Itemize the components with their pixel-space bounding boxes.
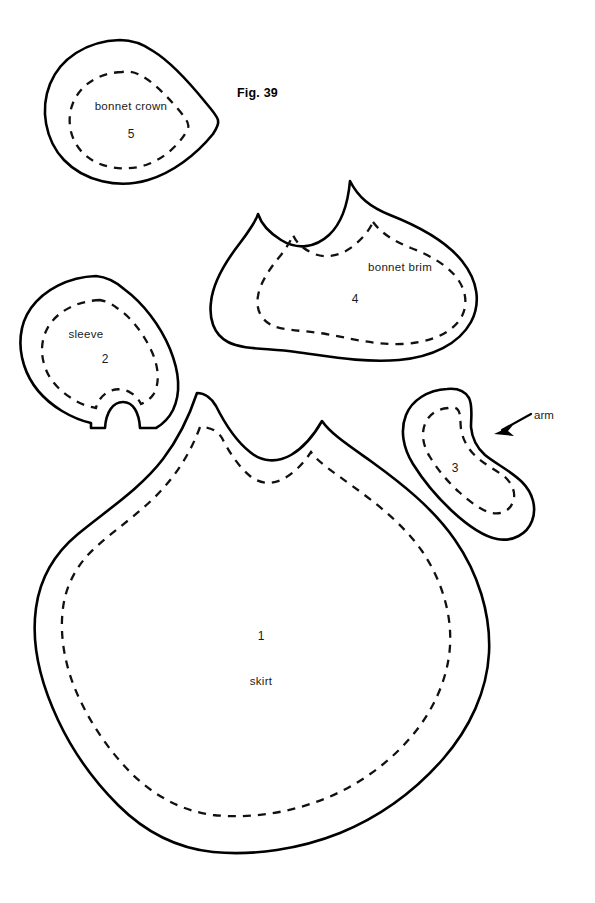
sleeve-label: sleeve (68, 328, 103, 340)
bonnet-brim-label: bonnet brim (368, 261, 432, 273)
sleeve-number: 2 (102, 352, 109, 366)
bonnet-crown-label: bonnet crown (95, 100, 168, 112)
bonnet-crown-number: 5 (128, 127, 135, 141)
pattern-sheet: bonnet crown 5 Fig. 39 bonnet brim 4 sle… (0, 0, 595, 903)
bonnet-brim-number: 4 (352, 292, 359, 306)
arm-number: 3 (452, 461, 459, 475)
arm-callout-label: arm (534, 409, 554, 421)
skirt-number: 1 (258, 629, 265, 643)
skirt-label: skirt (250, 675, 273, 687)
pattern-diagram: bonnet crown 5 Fig. 39 bonnet brim 4 sle… (0, 0, 595, 903)
figure-caption: Fig. 39 (237, 86, 278, 100)
